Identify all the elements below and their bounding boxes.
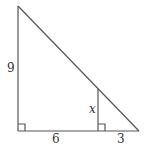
similar-triangles-diagram: 9 6 x 3 [0, 0, 149, 150]
right-angle-mark-inner [98, 124, 105, 131]
hypotenuse [18, 6, 139, 131]
label-base-right: 3 [117, 132, 125, 146]
label-inner-segment: x [89, 102, 96, 116]
label-base-left: 6 [52, 132, 60, 146]
label-left-leg: 9 [7, 61, 15, 75]
right-angle-mark-left [18, 124, 25, 131]
